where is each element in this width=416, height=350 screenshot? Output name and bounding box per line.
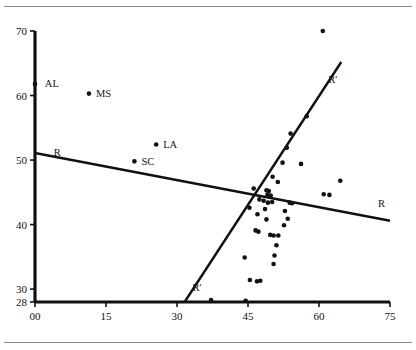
annotation-r-prime: R'	[193, 282, 202, 293]
y-tick-label: 30	[16, 283, 28, 295]
data-point	[285, 145, 290, 150]
data-point	[247, 205, 252, 210]
data-point	[263, 207, 268, 212]
x-tick-label: 75	[385, 310, 397, 322]
data-point	[285, 216, 290, 221]
y-tick-label: 40	[16, 219, 28, 231]
data-point	[243, 298, 248, 303]
x-tick-label: 30	[172, 310, 184, 322]
y-tick-label: 50	[16, 154, 28, 166]
x-tick-label: 15	[101, 310, 113, 322]
regression-lines-group	[35, 62, 390, 302]
data-point	[288, 131, 293, 136]
data-point	[255, 212, 260, 217]
data-point	[271, 262, 276, 267]
data-point	[257, 197, 262, 202]
data-point	[272, 253, 277, 258]
annotation-al: AL	[45, 78, 59, 89]
data-point	[280, 160, 285, 165]
data-point	[248, 278, 253, 283]
x-tick-label: 60	[314, 310, 326, 322]
y-tick-label: 70	[16, 25, 28, 37]
data-point	[274, 243, 279, 248]
data-point	[304, 114, 309, 119]
data-point-la	[154, 142, 159, 147]
data-point-sc	[132, 159, 137, 164]
annotation-r-prime: R'	[328, 74, 337, 85]
data-point-ms	[87, 91, 92, 96]
annotation-la: LA	[163, 139, 177, 150]
data-point	[270, 200, 275, 205]
data-point	[283, 209, 288, 214]
data-point	[266, 200, 271, 205]
data-point	[264, 217, 269, 222]
data-point	[258, 278, 263, 283]
data-point	[261, 198, 266, 203]
scatter-plot: 283040506070001530456075 ALMSLASCRRR'R'	[0, 0, 416, 350]
data-point	[282, 223, 287, 228]
y-tick-label: 60	[16, 90, 28, 102]
data-point	[256, 229, 261, 234]
data-point	[321, 192, 326, 197]
regression-line-R-prime	[185, 62, 342, 302]
y-tick-label: 28	[16, 296, 28, 308]
data-point-al	[33, 82, 38, 87]
figure-container: 283040506070001530456075 ALMSLASCRRR'R'	[0, 0, 416, 350]
data-point	[299, 162, 304, 167]
data-point	[209, 298, 214, 303]
annotation-r: R	[54, 147, 61, 158]
tick-marks-group	[30, 31, 390, 307]
regression-line-R	[35, 153, 390, 221]
annotation-r: R	[378, 198, 385, 209]
data-point	[276, 233, 281, 238]
data-point	[251, 186, 256, 191]
tick-labels-group: 283040506070001530456075	[16, 25, 396, 322]
annotation-ms: MS	[96, 88, 111, 99]
annotation-sc: SC	[141, 156, 154, 167]
data-point	[276, 180, 281, 185]
data-points-group	[209, 29, 343, 303]
data-point	[290, 201, 295, 206]
data-point	[320, 29, 325, 34]
data-point	[271, 233, 276, 238]
data-point	[338, 178, 343, 183]
annotations-group: ALMSLASCRRR'R'	[45, 74, 385, 293]
x-tick-label: 45	[243, 310, 255, 322]
data-point	[270, 175, 275, 180]
x-tick-label: 00	[30, 310, 42, 322]
data-point	[242, 255, 247, 260]
data-point	[327, 193, 332, 198]
data-point	[268, 193, 273, 198]
